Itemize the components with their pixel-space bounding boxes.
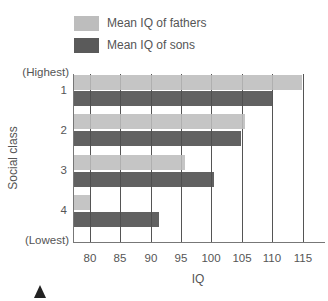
x-tick-label-95: 95 — [175, 252, 188, 264]
x-tick-label-90: 90 — [145, 252, 158, 264]
y-axis — [73, 74, 74, 242]
y-top-note: (Highest) — [22, 66, 69, 78]
x-axis-title: IQ — [192, 272, 205, 286]
x-tick-label-85: 85 — [114, 252, 127, 264]
triangle-marker-icon — [34, 285, 46, 298]
bar-sons-class-4 — [74, 212, 159, 227]
bar-fathers-class-4 — [74, 195, 90, 210]
y-bottom-note: (Lowest) — [25, 234, 69, 246]
gridline-110 — [272, 74, 273, 242]
bar-fathers-class-2 — [74, 114, 245, 129]
legend-label-fathers: Mean IQ of fathers — [107, 16, 206, 31]
legend-item-fathers: Mean IQ of fathers — [74, 16, 274, 32]
x-tick-label-105: 105 — [232, 252, 251, 264]
x-tick-label-100: 100 — [201, 252, 220, 264]
legend-swatch-sons — [74, 38, 99, 53]
x-tick-label-115: 115 — [294, 252, 312, 264]
legend-item-sons: Mean IQ of sons — [74, 38, 274, 54]
legend-label-sons: Mean IQ of sons — [107, 38, 195, 53]
bar-fathers-class-3 — [74, 155, 185, 170]
y-tick-label-4: 4 — [61, 204, 67, 216]
y-tick-label-1: 1 — [61, 84, 67, 96]
y-axis-title: Social class — [6, 126, 20, 189]
gridline-115 — [303, 74, 304, 242]
y-tick-label-3: 3 — [61, 164, 67, 176]
bar-sons-class-2 — [74, 131, 241, 146]
bar-sons-class-1 — [74, 91, 272, 106]
legend-swatch-fathers — [74, 16, 99, 31]
y-tick-label-2: 2 — [61, 124, 67, 136]
bar-sons-class-3 — [74, 172, 214, 187]
x-tick-label-110: 110 — [263, 252, 281, 264]
x-axis — [73, 242, 325, 243]
plot-area — [73, 74, 328, 243]
bar-fathers-class-1 — [74, 75, 302, 90]
x-tick-label-80: 80 — [84, 252, 97, 264]
